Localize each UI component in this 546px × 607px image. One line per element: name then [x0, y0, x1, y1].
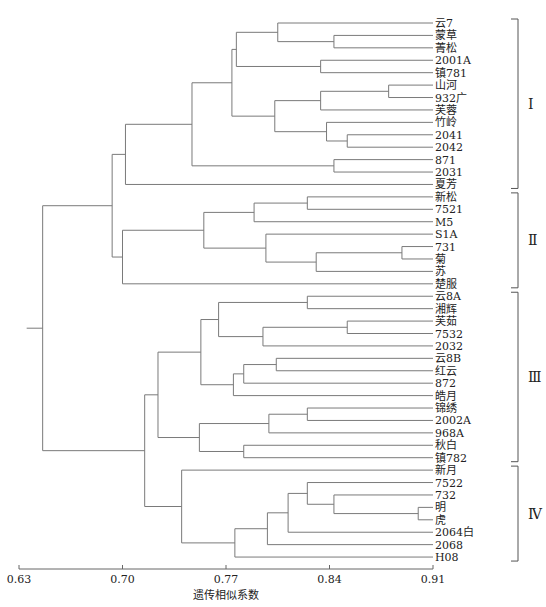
group-bracket — [511, 193, 518, 288]
x-tick-label: 0.77 — [214, 573, 239, 586]
leaf-label: 芙蓉 — [435, 103, 457, 117]
branch-a12 — [192, 83, 334, 166]
branch-d11 — [244, 445, 433, 457]
x-tick-label: 0.91 — [421, 573, 446, 586]
leaf-label: 732 — [435, 489, 456, 502]
leaf-label: 竹岭 — [435, 115, 457, 129]
branch-a2 — [278, 23, 433, 42]
leaf-label: 菁松 — [435, 41, 457, 55]
leaf-label: 7521 — [435, 203, 463, 216]
branch-a11 — [334, 160, 433, 172]
branch-d10 — [269, 414, 433, 433]
leaf-label: 2032 — [435, 340, 463, 353]
branch-a6 — [321, 91, 433, 110]
leaf-label: 蒙草 — [435, 29, 457, 42]
branch-d13 — [158, 352, 201, 437]
leaf-label: 新月 — [435, 463, 457, 477]
group-brackets: ⅠⅡⅢⅣ — [511, 19, 543, 561]
leaf-label: 云8A — [435, 290, 462, 303]
leaf-label: 明 — [435, 501, 446, 514]
branch-b6 — [204, 212, 266, 248]
leaf-label: 新松 — [435, 190, 457, 204]
leaf-label: 夏芳 — [435, 177, 457, 191]
branch-d8 — [201, 320, 234, 385]
branch-a4 — [236, 32, 320, 66]
group-bracket — [511, 292, 518, 461]
branch-a3 — [321, 60, 433, 72]
leaf-label: 2042 — [435, 141, 463, 154]
leaf-label: 871 — [435, 154, 456, 167]
branch-c1 — [112, 154, 125, 257]
branch-d7 — [233, 374, 433, 396]
branch-a9 — [275, 101, 327, 132]
branch-a8 — [327, 122, 433, 141]
x-axis-ticks: 0.630.700.770.840.91 — [7, 565, 446, 586]
branch-f1 — [145, 395, 182, 507]
leaf-labels: 云7蒙草菁松2001A镇781山河932广芙蓉竹岭204120428712031… — [435, 17, 474, 564]
branch-a1 — [334, 35, 433, 47]
group-label: Ⅳ — [528, 506, 543, 522]
leaf-label: 楚服 — [435, 277, 457, 291]
leaf-label: 山河 — [435, 79, 457, 92]
group-bracket — [511, 19, 518, 188]
group-label: Ⅱ — [528, 232, 538, 248]
leaf-label: S1A — [435, 228, 459, 241]
leaf-label: 皓月 — [435, 390, 457, 403]
leaf-label: 秋白 — [435, 438, 457, 452]
branch-a10 — [232, 49, 275, 116]
branch-b1 — [307, 197, 433, 209]
leaf-label: 红云 — [435, 365, 457, 378]
leaf-label: 2031 — [435, 166, 463, 179]
branch-d12 — [199, 424, 268, 452]
leaf-label: 2068 — [435, 539, 463, 552]
leaf-label: 云8B — [435, 352, 461, 365]
dendrogram-branches — [27, 23, 433, 557]
branch-d6 — [244, 365, 433, 384]
branch-d5 — [276, 358, 433, 370]
dendrogram: 云7蒙草菁松2001A镇781山河932广芙蓉竹岭204120428712031… — [0, 0, 546, 607]
branch-b5 — [266, 234, 433, 262]
leaf-label: 7522 — [435, 477, 463, 490]
branch-d1 — [307, 296, 433, 308]
branch-a5 — [389, 85, 433, 97]
branch-root — [43, 206, 145, 451]
leaf-label: 872 — [435, 377, 456, 390]
x-axis: 0.630.700.770.840.91 遗传相似系数 — [7, 565, 446, 602]
branch-b3 — [402, 247, 433, 259]
branch-d3 — [263, 327, 433, 346]
leaf-label: 云7 — [435, 17, 453, 30]
leaf-label: 2001A — [435, 54, 472, 67]
leaf-label: 2041 — [435, 129, 463, 142]
leaf-label: 932广 — [435, 92, 467, 105]
x-tick-label: 0.70 — [110, 573, 135, 586]
branch-e6 — [235, 529, 433, 557]
leaf-label: 731 — [435, 241, 456, 254]
leaf-label: 锦绣 — [435, 401, 457, 415]
branch-b7 — [123, 230, 434, 284]
leaf-label: H08 — [435, 551, 459, 564]
leaf-label: 虎 — [435, 514, 446, 527]
x-tick-label: 0.84 — [317, 573, 342, 586]
leaf-label: 镇782 — [435, 451, 467, 465]
branch-d2 — [347, 321, 433, 333]
branch-e5 — [267, 513, 433, 545]
branch-a13 — [125, 124, 433, 184]
group-bracket — [511, 466, 518, 561]
leaf-label: M5 — [435, 216, 453, 229]
branch-e4 — [288, 493, 433, 532]
leaf-label: 7532 — [435, 328, 463, 341]
branch-a7 — [347, 135, 433, 147]
branch-b4 — [316, 253, 433, 272]
leaf-label: 2002A — [435, 414, 472, 427]
x-axis-title: 遗传相似系数 — [193, 588, 259, 602]
leaf-label: 苏 — [435, 265, 446, 278]
branch-e1 — [418, 507, 433, 519]
leaf-label: 芙茹 — [435, 314, 457, 328]
branch-d9 — [307, 408, 433, 420]
leaf-label: 湘辉 — [435, 302, 457, 316]
leaf-label: 2064白 — [435, 525, 474, 539]
x-tick-label: 0.63 — [7, 573, 32, 586]
leaf-label: 镇781 — [435, 66, 467, 80]
group-label: Ⅲ — [528, 369, 542, 385]
leaf-label: 968A — [435, 427, 465, 440]
